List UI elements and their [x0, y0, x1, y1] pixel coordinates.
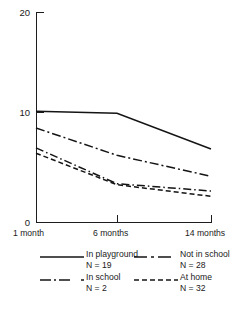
x-tick-label-1-month: 1 month	[13, 228, 44, 239]
legend-swatch-dash-dot-dash-icon	[134, 253, 178, 261]
legend-label-in-school: In school	[86, 272, 120, 283]
legend-n-not-in-school: N = 28	[180, 260, 206, 271]
series-line-at-home	[36, 153, 211, 196]
legend-item-at-home: At home N = 32	[134, 272, 240, 295]
legend-n-at-home: N = 32	[180, 283, 206, 294]
legend-swatch-solid-icon	[40, 253, 84, 261]
series-line-in-school	[36, 148, 211, 191]
legend-column-right: Not in school N = 28 At home N = 32	[134, 249, 240, 295]
legend-item-in-playground: In playground N = 19	[40, 249, 138, 272]
legend-n-in-playground: N = 19	[86, 260, 112, 271]
y-tick-label-0: 0	[25, 217, 30, 228]
legend-column-left: In playground N = 19 In school N = 2	[40, 249, 138, 295]
legend-n-in-school: N = 2	[86, 283, 107, 294]
legend-label-at-home: At home	[180, 272, 212, 283]
chart-legend: In playground N = 19 In school N = 2 Not…	[0, 249, 240, 309]
legend-item-not-in-school: Not in school N = 28	[134, 249, 240, 272]
axis-lines	[37, 12, 213, 223]
series-line-in-playground	[36, 111, 211, 149]
series-line-not-in-school	[36, 128, 211, 176]
x-tick-label-14-months: 14 months	[185, 228, 225, 239]
y-tick-label-20: 20	[19, 7, 30, 18]
plot-area: 20 10 0	[0, 0, 240, 235]
x-axis-tick-labels: 1 month 6 months 14 months	[0, 228, 240, 244]
y-tick-label-10: 10	[19, 107, 30, 118]
legend-label-in-playground: In playground	[86, 249, 138, 260]
legend-swatch-long-dash-dot-icon	[40, 276, 84, 284]
legend-label-not-in-school: Not in school	[180, 249, 230, 260]
x-tick-label-6-months: 6 months	[93, 228, 128, 239]
line-chart-figure: 20 10 0 1 month 6 months 14 months In pl…	[0, 0, 240, 311]
legend-swatch-dashed-icon	[134, 276, 178, 284]
legend-item-in-school: In school N = 2	[40, 272, 138, 295]
plot-svg: 20 10 0	[0, 0, 240, 235]
